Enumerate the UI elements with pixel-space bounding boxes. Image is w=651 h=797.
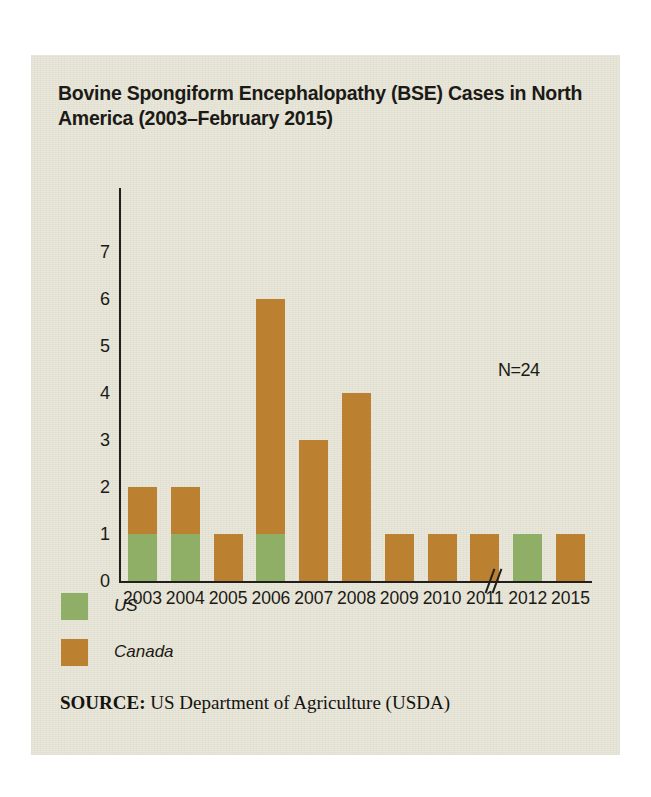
- bar-2009[interactable]: [385, 534, 414, 581]
- source-label: SOURCE:: [60, 692, 146, 713]
- bar-2008[interactable]: [342, 393, 371, 581]
- y-tick-label: 4: [68, 383, 110, 404]
- source-note: SOURCE: US Department of Agriculture (US…: [60, 692, 450, 714]
- sample-size-annotation: N=24: [498, 360, 540, 381]
- bar-segment-canada-2007: [299, 440, 328, 581]
- bar-series-container: [121, 180, 592, 583]
- bar-segment-canada-2008: [342, 393, 371, 581]
- y-tick-label: 2: [68, 477, 110, 498]
- chart-legend: US Canada: [61, 583, 174, 675]
- bar-segment-canada-2010: [428, 534, 457, 581]
- plot-area: 76543210 2003200420052006200720082009201…: [58, 180, 598, 605]
- y-tick-label: 6: [68, 289, 110, 310]
- bar-segment-canada-2006: [256, 299, 285, 534]
- bar-2006[interactable]: [256, 299, 285, 581]
- x-tick-label-2015: 2015: [542, 588, 600, 609]
- chart-title: Bovine Spongiform Encephalopathy (BSE) C…: [58, 81, 588, 131]
- source-text: US Department of Agriculture (USDA): [146, 692, 450, 713]
- legend-swatch-us-icon: [61, 593, 88, 620]
- bar-2010[interactable]: [428, 534, 457, 581]
- bar-2007[interactable]: [299, 440, 328, 581]
- y-axis-tick-labels: 76543210: [58, 180, 110, 583]
- legend-item-canada: Canada: [61, 629, 174, 675]
- legend-item-us: US: [61, 583, 174, 629]
- bar-segment-canada-2005: [214, 534, 243, 581]
- legend-label-us: US: [114, 596, 138, 616]
- y-tick-label: 3: [68, 430, 110, 451]
- bar-segment-canada-2003: [128, 487, 157, 534]
- bar-segment-us-2003: [128, 534, 157, 581]
- bar-2003[interactable]: [128, 487, 157, 581]
- legend-swatch-canada-icon: [61, 639, 88, 666]
- bar-segment-canada-2004: [171, 487, 200, 534]
- figure-panel: Bovine Spongiform Encephalopathy (BSE) C…: [31, 55, 620, 755]
- bar-segment-us-2006: [256, 534, 285, 581]
- legend-label-canada: Canada: [114, 642, 174, 662]
- bar-2012[interactable]: [513, 534, 542, 581]
- y-tick-label: 5: [68, 336, 110, 357]
- bar-segment-us-2012: [513, 534, 542, 581]
- x-axis-tick-labels: 2003200420052006200720082009201020112012…: [121, 588, 592, 618]
- bar-segment-canada-2015: [556, 534, 585, 581]
- bar-2015[interactable]: [556, 534, 585, 581]
- bar-segment-us-2004: [171, 534, 200, 581]
- bar-2004[interactable]: [171, 487, 200, 581]
- y-tick-label: 1: [68, 524, 110, 545]
- bar-segment-canada-2009: [385, 534, 414, 581]
- bar-2005[interactable]: [214, 534, 243, 581]
- y-tick-label: 7: [68, 242, 110, 263]
